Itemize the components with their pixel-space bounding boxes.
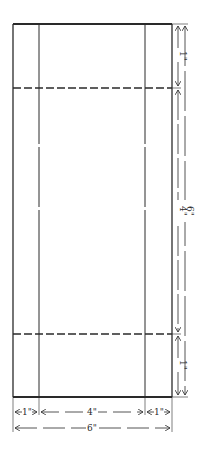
outline-rectangle [13,24,172,397]
bottom-left-label: 1" [22,407,32,417]
right-top-label: 1" [178,51,188,61]
horizontal-dashed-lines [13,88,172,334]
bottom-right-label: 1" [154,407,164,417]
bottom-dimension-labels: 1" 4" 1" 6" [22,405,164,433]
bottom-middle-label: 4" [87,407,97,417]
right-bottom-label: 1" [178,360,188,370]
vertical-fold-lines [39,24,145,397]
right-dimension-labels: 1" 4" 6" 1" [174,48,195,372]
right-total-label: 6" [185,206,195,216]
bottom-total-label: 6" [87,423,97,433]
dimensioned-drawing: 1" 4" 6" 1" 1" 4" 1" 6" [0,0,199,454]
